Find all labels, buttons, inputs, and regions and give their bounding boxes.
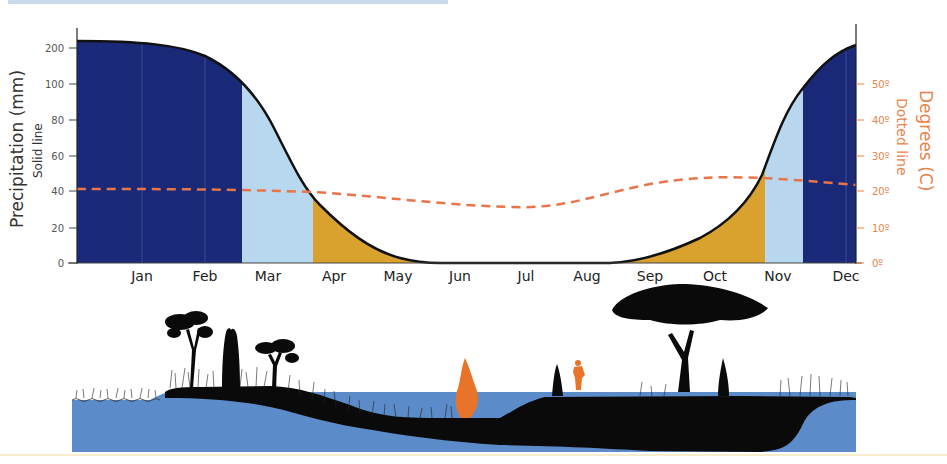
band-wet-right bbox=[803, 30, 856, 264]
band-wet-left bbox=[77, 30, 242, 264]
left-tick-200: 200 bbox=[45, 43, 64, 54]
left-tick-60: 60 bbox=[51, 151, 64, 162]
band-transition-right bbox=[765, 30, 803, 264]
left-tick-0: 0 bbox=[58, 258, 64, 269]
right-tick-10: 10º bbox=[872, 223, 890, 234]
landscape-illustration bbox=[0, 284, 947, 455]
termite-mound-small-icon bbox=[552, 364, 563, 396]
right-axis-ticks bbox=[856, 84, 864, 263]
right-axis-title: Degrees (C) bbox=[916, 90, 936, 191]
month-nov: Nov bbox=[764, 268, 791, 284]
month-oct: Oct bbox=[703, 268, 728, 284]
right-tick-50: 50º bbox=[872, 79, 890, 90]
month-sep: Sep bbox=[637, 268, 664, 284]
month-jul: Jul bbox=[517, 268, 535, 284]
right-tick-0: 0º bbox=[872, 258, 883, 269]
left-axis-subtitle: Solid line bbox=[31, 123, 45, 178]
person-figure-icon bbox=[573, 360, 585, 390]
month-jun: Jun bbox=[448, 268, 471, 284]
month-mar: Mar bbox=[255, 268, 282, 284]
fire-flame-icon bbox=[456, 358, 478, 418]
right-tick-30: 30º bbox=[872, 151, 890, 162]
right-axis-subtitle: Dotted line bbox=[894, 98, 910, 176]
band-transition-left bbox=[242, 30, 313, 264]
month-apr: Apr bbox=[322, 268, 346, 284]
left-tick-100: 100 bbox=[45, 79, 64, 90]
month-aug: Aug bbox=[573, 268, 600, 284]
month-may: May bbox=[384, 268, 413, 284]
right-tick-20: 20º bbox=[872, 186, 890, 197]
left-tick-40: 40 bbox=[51, 186, 64, 197]
tree-small-left-icon bbox=[165, 311, 213, 388]
acacia-tree-icon bbox=[612, 284, 768, 392]
band-dry-right bbox=[600, 30, 765, 264]
left-tick-80: 80 bbox=[51, 115, 64, 126]
termite-mound-right-icon bbox=[718, 358, 729, 396]
right-tick-40: 40º bbox=[872, 115, 890, 126]
left-tick-20: 20 bbox=[51, 223, 64, 234]
left-axis-ticks bbox=[69, 48, 77, 263]
month-dec: Dec bbox=[832, 268, 859, 284]
month-jan: Jan bbox=[130, 268, 153, 284]
month-feb: Feb bbox=[193, 268, 218, 284]
seasonal-bands bbox=[77, 30, 856, 264]
tree-small-right-icon bbox=[255, 339, 299, 388]
left-axis-title: Precipitation (mm) bbox=[7, 70, 27, 228]
termite-mound-tall-icon bbox=[222, 328, 240, 388]
band-dry-left bbox=[313, 30, 443, 264]
climate-chart: 200 100 80 60 40 20 0 50º 40º 30º 20º 10… bbox=[0, 0, 947, 464]
